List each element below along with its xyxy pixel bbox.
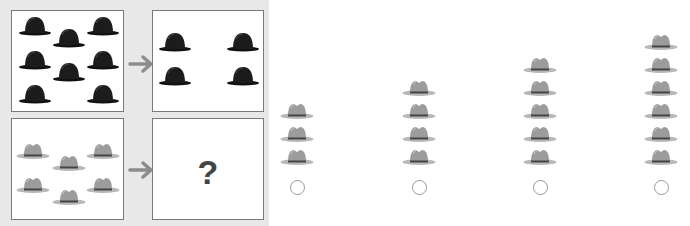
- option-radio-2[interactable]: [412, 180, 427, 195]
- bowler-hat-icon: [86, 49, 120, 71]
- fedora-hat-icon: [644, 124, 678, 144]
- fedora-hat-icon: [523, 124, 557, 144]
- option-radio-4[interactable]: [654, 180, 669, 195]
- fedora-hat-icon: [16, 141, 50, 161]
- fedora-hat-icon: [523, 78, 557, 98]
- fedora-hat-icon: [402, 124, 436, 144]
- fedora-hat-icon: [280, 147, 314, 167]
- bowler-hat-icon: [226, 31, 260, 53]
- fedora-hat-icon: [280, 101, 314, 121]
- bowler-hat-icon: [158, 31, 192, 53]
- bowler-hat-icon: [18, 15, 52, 37]
- option-radio-1[interactable]: [290, 180, 305, 195]
- answer-box: ?: [152, 118, 264, 220]
- bowler-hat-icon: [18, 49, 52, 71]
- fedora-hat-icon: [644, 32, 678, 52]
- fedora-hat-icon: [644, 78, 678, 98]
- bowler-hat-icon: [52, 61, 86, 83]
- bowler-hat-icon: [86, 83, 120, 105]
- arrow-right-icon: [128, 160, 156, 180]
- question-mark: ?: [153, 153, 263, 192]
- bowler-hat-icon: [86, 15, 120, 37]
- fedora-hat-icon: [644, 147, 678, 167]
- fedora-hat-icon: [523, 55, 557, 75]
- bowler-hat-icon: [226, 65, 260, 87]
- fedora-hat-icon: [280, 124, 314, 144]
- fedora-hat-icon: [86, 141, 120, 161]
- fedora-hat-icon: [52, 153, 86, 173]
- fedora-hat-icon: [16, 175, 50, 195]
- top-left-box: [11, 10, 124, 112]
- arrow-right-icon: [128, 54, 156, 74]
- fedora-hat-icon: [402, 101, 436, 121]
- bottom-left-box: [11, 118, 124, 220]
- fedora-hat-icon: [523, 101, 557, 121]
- fedora-hat-icon: [523, 147, 557, 167]
- fedora-hat-icon: [402, 78, 436, 98]
- fedora-hat-icon: [644, 55, 678, 75]
- option-radio-3[interactable]: [533, 180, 548, 195]
- fedora-hat-icon: [86, 175, 120, 195]
- bowler-hat-icon: [158, 65, 192, 87]
- fedora-hat-icon: [644, 101, 678, 121]
- fedora-hat-icon: [402, 147, 436, 167]
- top-right-box: [152, 10, 264, 112]
- bowler-hat-icon: [52, 27, 86, 49]
- puzzle-panel: ?: [0, 0, 269, 226]
- fedora-hat-icon: [52, 187, 86, 207]
- bowler-hat-icon: [18, 83, 52, 105]
